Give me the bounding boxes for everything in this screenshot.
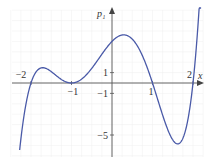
x-tick-label: 2: [187, 69, 192, 80]
x-axis-label: x: [197, 70, 203, 81]
polynomial-curve: [20, 8, 201, 150]
polynomial-chart: −2−1121−1−5 x p₁: [0, 0, 215, 163]
y-axis-arrow-icon: [109, 7, 115, 14]
y-tick-label: 1: [103, 67, 108, 78]
axes: [12, 7, 204, 157]
x-tick-label: −2: [16, 69, 27, 80]
x-tick-label: −1: [68, 86, 79, 97]
y-axis-label: p₁: [96, 8, 105, 19]
x-tick-label: 1: [149, 86, 154, 97]
y-tick-label: −1: [97, 88, 108, 99]
y-tick-label: −5: [97, 130, 108, 141]
